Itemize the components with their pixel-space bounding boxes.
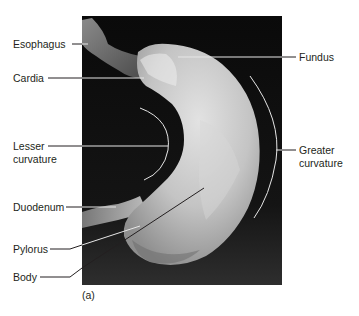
label-greater-curvature-line2: curvature: [299, 157, 343, 169]
label-lesser-curvature-line2: curvature: [13, 153, 57, 165]
label-pylorus: Pylorus: [13, 243, 48, 255]
label-body: Body: [13, 271, 37, 283]
label-cardia: Cardia: [13, 72, 44, 84]
label-esophagus: Esophagus: [13, 38, 66, 50]
label-greater-curvature-line1: Greater: [299, 144, 335, 156]
label-duodenum: Duodenum: [13, 201, 64, 213]
label-lesser-curvature-line1: Lesser: [13, 140, 45, 152]
figure-caption: (a): [82, 289, 95, 301]
label-fundus: Fundus: [299, 51, 334, 63]
stomach-anatomy-figure: Esophagus Cardia Lesser curvature Duoden…: [0, 0, 359, 316]
